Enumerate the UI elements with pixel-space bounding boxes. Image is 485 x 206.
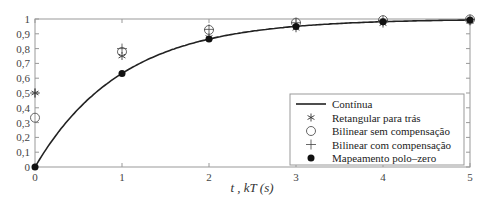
svg-text:1: 1 (119, 171, 125, 183)
svg-text:0,1: 0,1 (16, 146, 30, 158)
series-markers (32, 17, 474, 97)
svg-text:2: 2 (206, 171, 212, 183)
svg-text:3: 3 (293, 171, 299, 183)
svg-text:5: 5 (467, 171, 473, 183)
svg-text:0,8: 0,8 (16, 43, 30, 55)
svg-text:0,2: 0,2 (16, 131, 30, 143)
legend-item: Mapeamento polo–zero (332, 152, 437, 164)
svg-text:0,3: 0,3 (16, 117, 30, 129)
svg-text:0,6: 0,6 (16, 72, 30, 84)
series-markers (30, 14, 475, 98)
legend-item: Bilinear com compensação (332, 139, 452, 151)
legend-item: Retangular para trás (332, 112, 421, 124)
legend-item: Bilinear sem compensação (332, 125, 450, 137)
x-axis-label: t , kT (s) (230, 180, 273, 195)
step-response-chart: 01234500,10,20,30,40,50,60,70,80,91 t , … (0, 0, 485, 206)
svg-text:0,9: 0,9 (16, 28, 30, 40)
svg-text:0,5: 0,5 (16, 87, 30, 99)
legend-item: Contínua (332, 98, 372, 110)
legend: ContínuaRetangular para trásBilinear sem… (290, 94, 464, 165)
svg-text:1: 1 (25, 13, 31, 25)
svg-text:0: 0 (25, 161, 31, 173)
svg-text:0: 0 (32, 171, 38, 183)
svg-text:0,7: 0,7 (16, 57, 30, 69)
svg-text:4: 4 (380, 171, 386, 183)
svg-text:0,4: 0,4 (16, 102, 30, 114)
